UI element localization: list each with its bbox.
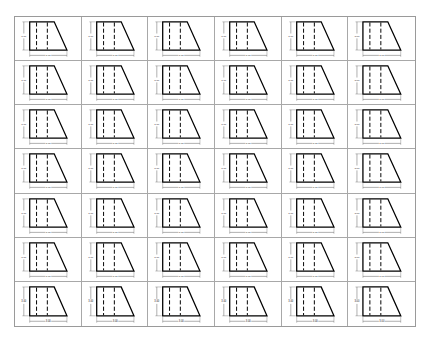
drawing-cell-r6-c2: 3.00 3.00: [82, 238, 149, 282]
trapezoid-outline: [296, 198, 333, 226]
trapezoid-outline: [296, 154, 333, 182]
height-dimension: 3.00: [21, 154, 28, 182]
trapezoid-drawing: 3.00 3.00: [15, 282, 81, 326]
drawing-cell-r7-c4: 3.00 3.00: [215, 282, 282, 326]
height-dimension: 3.00: [21, 110, 28, 138]
drawing-cell-r3-c1: 3.00 3.00: [15, 105, 82, 149]
drawing-cell-r7-c2: 3.00 3.00: [82, 282, 149, 326]
trapezoid-drawing: 3.00 3.00: [215, 282, 281, 326]
width-label: 3.00: [313, 187, 319, 190]
trapezoid-outline: [96, 287, 133, 316]
trapezoid-drawing: 3.00 3.00: [348, 149, 415, 192]
drawing-cell-r3-c6: 3.00 3.00: [348, 105, 415, 149]
height-label: 3.00: [288, 35, 294, 38]
trapezoid-drawing: 3.00 3.00: [348, 194, 415, 237]
drawing-cell-r5-c3: 3.00 3.00: [148, 194, 215, 238]
height-label: 3.00: [21, 123, 27, 126]
height-dimension: 3.00: [288, 110, 295, 138]
height-label: 3.00: [21, 35, 27, 38]
height-dimension: 3.00: [155, 243, 162, 271]
height-dimension: 3.00: [221, 110, 228, 138]
width-dimension: 3.00: [230, 183, 267, 189]
width-dimension: 3.00: [230, 317, 267, 323]
height-label: 3.00: [288, 79, 294, 82]
height-label: 3.00: [221, 123, 227, 126]
height-dimension: 3.00: [355, 287, 362, 316]
width-dimension: 3.00: [96, 183, 133, 189]
height-label: 3.00: [21, 256, 27, 259]
drawing-cell-r7-c5: 3.00 3.00: [282, 282, 349, 326]
width-dimension: 3.00: [163, 317, 200, 323]
width-dimension: 3.00: [163, 228, 200, 234]
drawing-cell-r7-c1: 3.00 3.00: [15, 282, 82, 326]
height-label: 3.00: [221, 167, 227, 170]
width-label: 3.00: [113, 54, 119, 57]
height-dimension: 3.00: [288, 198, 295, 226]
drawing-cell-r1-c6: 3.00 3.00: [348, 17, 415, 61]
height-dimension: 3.00: [221, 243, 228, 271]
width-label: 3.00: [113, 187, 119, 190]
drawing-cell-r5-c5: 3.00 3.00: [282, 194, 349, 238]
height-label: 3.00: [155, 167, 161, 170]
trapezoid-outline: [296, 287, 333, 316]
drawing-cell-r3-c2: 3.00 3.00: [82, 105, 149, 149]
trapezoid-outline: [163, 243, 200, 271]
width-dimension: 3.00: [296, 272, 333, 278]
trapezoid-drawing: 3.00 3.00: [282, 61, 348, 104]
drawing-cell-r6-c6: 3.00 3.00: [348, 238, 415, 282]
drawing-cell-r2-c3: 3.00 3.00: [148, 61, 215, 105]
trapezoid-outline: [96, 22, 133, 50]
height-label: 3.00: [355, 166, 361, 170]
width-label: 3.00: [46, 143, 52, 146]
trapezoid-outline: [363, 287, 401, 316]
width-dimension: 3.00: [296, 228, 333, 234]
drawing-cell-r2-c2: 3.00 3.00: [82, 61, 149, 105]
width-dimension: 3.00: [96, 139, 133, 145]
height-dimension: 3.00: [221, 22, 228, 50]
width-dimension: 3.00: [163, 272, 200, 278]
trapezoid-drawing: 3.00 3.00: [348, 105, 415, 148]
height-label: 3.00: [88, 79, 94, 82]
trapezoid-outline: [30, 243, 67, 271]
width-label: 3.00: [380, 319, 386, 323]
height-label: 3.00: [88, 299, 94, 303]
trapezoid-drawing: 3.00 3.00: [215, 194, 281, 237]
trapezoid-outline: [30, 198, 67, 226]
trapezoid-outline: [363, 22, 401, 50]
width-label: 3.00: [113, 275, 119, 278]
width-dimension: 3.00: [30, 139, 67, 145]
width-label: 3.00: [179, 275, 185, 278]
height-label: 3.00: [288, 256, 294, 259]
width-label: 3.00: [113, 98, 119, 101]
height-dimension: 3.00: [221, 198, 228, 226]
width-dimension: 3.00: [230, 139, 267, 145]
height-label: 3.00: [288, 299, 294, 303]
drawing-cell-r4-c3: 3.00 3.00: [148, 149, 215, 193]
height-dimension: 3.00: [88, 287, 95, 316]
width-dimension: 3.00: [30, 272, 67, 278]
drawing-cell-r6-c3: 3.00 3.00: [148, 238, 215, 282]
drawing-cell-r5-c1: 3.00 3.00: [15, 194, 82, 238]
height-label: 3.00: [221, 211, 227, 214]
width-dimension: 3.00: [163, 183, 200, 189]
trapezoid-outline: [363, 198, 401, 226]
height-label: 3.00: [21, 299, 27, 303]
height-dimension: 3.00: [88, 154, 95, 182]
trapezoid-drawing: 3.00 3.00: [348, 282, 415, 326]
trapezoid-outline: [363, 154, 401, 182]
height-label: 3.00: [88, 123, 94, 126]
width-dimension: 3.00: [363, 317, 401, 323]
trapezoid-drawing: 3.00 3.00: [215, 105, 281, 148]
trapezoid-drawing: 3.00 3.00: [215, 238, 281, 281]
width-dimension: 3.00: [296, 51, 333, 57]
trapezoid-outline: [163, 154, 200, 182]
height-dimension: 3.00: [221, 287, 228, 316]
width-label: 3.00: [313, 54, 319, 57]
width-dimension: 3.00: [96, 272, 133, 278]
height-label: 3.00: [21, 167, 27, 170]
height-dimension: 3.00: [355, 198, 362, 226]
trapezoid-outline: [230, 243, 267, 271]
height-dimension: 3.00: [21, 287, 28, 316]
width-label: 3.00: [313, 143, 319, 146]
width-dimension: 3.00: [363, 228, 401, 234]
